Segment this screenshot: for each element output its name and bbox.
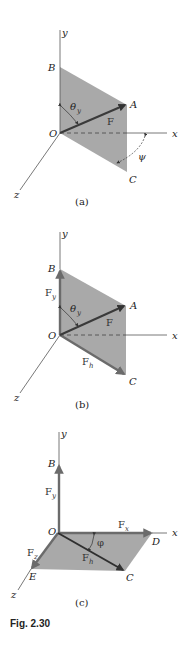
y-axis-label: y — [60, 428, 67, 439]
x-axis-label: x — [172, 330, 178, 341]
z-axis — [20, 133, 60, 190]
component-fz-label: F — [27, 547, 34, 558]
panel-a: y x z B A C O F θ y ψ (a) — [13, 27, 178, 207]
component-fy-subscript: y — [51, 492, 57, 500]
point-c-label: C — [129, 376, 137, 387]
panel-b-caption: (b) — [75, 399, 89, 410]
point-e-label: E — [28, 571, 37, 582]
component-fh-label: F — [82, 552, 89, 563]
theta-y-label: θ — [70, 101, 76, 112]
point-a-label: A — [129, 300, 137, 311]
y-axis-label: y — [61, 27, 68, 38]
panel-c-caption: (c) — [75, 597, 89, 608]
vector-f-label: F — [107, 116, 114, 127]
phi-label: φ — [97, 537, 104, 548]
figure-2-30: y x z B A C O F θ y ψ (a) y x z B A C O … — [0, 0, 191, 654]
point-d-label: D — [151, 536, 160, 547]
x-axis-label: x — [172, 128, 178, 139]
origin-label: O — [48, 330, 56, 341]
panel-a-caption: (a) — [75, 196, 89, 207]
point-c-label: C — [126, 572, 134, 583]
point-b-label: B — [47, 62, 55, 73]
panel-c: y x z B O D C E F y F x F z F h φ (c) — [10, 428, 178, 608]
z-axis-label: z — [13, 392, 20, 403]
panel-b: y x z B A C O F F y F h θ y (b) — [13, 228, 178, 410]
component-fy-label: F — [45, 287, 52, 298]
y-axis-label: y — [61, 228, 68, 239]
z-axis — [20, 335, 60, 393]
component-fy-subscript: y — [51, 293, 57, 301]
z-axis-label: z — [10, 589, 17, 600]
component-fh-label: F — [82, 356, 89, 367]
component-fz-subscript: z — [33, 553, 38, 561]
component-fh-subscript: h — [89, 362, 94, 370]
theta-y-label: θ — [70, 303, 76, 314]
point-b-label: B — [47, 263, 55, 274]
plane-obac — [60, 269, 126, 375]
point-a-label: A — [129, 99, 137, 110]
vector-f-label: F — [106, 317, 113, 328]
point-b-label: B — [47, 458, 55, 469]
origin-label: O — [48, 526, 56, 537]
psi-label: ψ — [138, 151, 146, 162]
point-c-label: C — [129, 174, 137, 185]
component-fh-subscript: h — [89, 558, 94, 566]
component-fx-label: F — [118, 519, 125, 530]
x-axis-label: x — [172, 527, 178, 538]
component-fy-label: F — [45, 486, 52, 497]
z-axis-label: z — [13, 189, 20, 200]
figure-caption: Fig. 2.30 — [10, 618, 50, 629]
origin-label: O — [49, 128, 57, 139]
component-fx-subscript: x — [125, 525, 129, 533]
